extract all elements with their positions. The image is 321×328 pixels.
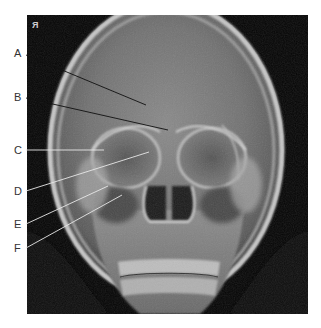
label-f: F [14, 242, 21, 254]
label-b: B [14, 91, 21, 103]
label-a: A [14, 47, 22, 59]
label-c: C [14, 144, 22, 156]
skull-image: Я [27, 0, 308, 314]
skull-radiograph-figure: Я A B C D E F [0, 0, 321, 328]
label-d: D [14, 185, 22, 197]
side-marker: Я [32, 20, 38, 30]
label-e: E [14, 218, 21, 230]
